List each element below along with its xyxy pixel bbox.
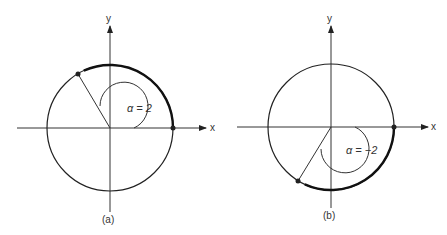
- y-axis-label: y: [327, 13, 332, 24]
- radius-line: [298, 127, 331, 181]
- figure-a: α = 2 x y (a): [17, 13, 215, 225]
- caption: (b): [323, 210, 335, 221]
- angle-label: α = 2: [127, 102, 152, 114]
- unit-circle-diagrams: α = 2 x y (a) α = −2 x y (b): [0, 0, 447, 235]
- start-point: [392, 125, 397, 130]
- end-point: [76, 72, 81, 77]
- start-point: [171, 126, 176, 131]
- radius-line: [78, 74, 110, 128]
- angle-label: α = −2: [346, 144, 377, 156]
- arc-highlight: [84, 65, 173, 128]
- arc-highlight: [305, 127, 394, 190]
- x-axis-label: x: [431, 121, 436, 132]
- figure-b: α = −2 x y (b): [237, 13, 436, 221]
- caption: (a): [102, 214, 114, 225]
- y-axis-label: y: [106, 13, 111, 24]
- x-axis-label: x: [210, 122, 215, 133]
- end-point: [296, 179, 301, 184]
